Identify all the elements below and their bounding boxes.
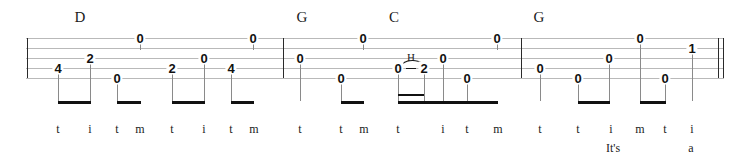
fret-number: 0	[392, 62, 403, 75]
end-barline-thick	[723, 38, 724, 78]
fingering-letter: i	[690, 123, 693, 135]
start-barline	[27, 38, 28, 78]
fingering-letter: i	[441, 123, 444, 135]
fingering-letter: i	[88, 123, 91, 135]
fingering-letter: t	[538, 123, 541, 135]
note-beam	[341, 101, 364, 104]
fret-number: 2	[166, 62, 177, 75]
note-beam	[231, 101, 254, 104]
chord-symbol: D	[75, 10, 86, 25]
staff-line-1	[26, 38, 724, 39]
note-beam	[117, 101, 141, 104]
staff-line-4	[26, 68, 724, 69]
hammer-on-connector	[406, 68, 416, 69]
fret-number: 4	[52, 62, 63, 75]
note-beam	[398, 94, 424, 96]
staff-line-5	[26, 78, 724, 79]
note-beam	[172, 101, 205, 104]
staff-line-3	[26, 58, 724, 59]
fret-number: 0	[437, 52, 448, 65]
fret-number: 0	[572, 72, 583, 85]
fret-number: 0	[659, 72, 670, 85]
chord-symbol: G	[297, 10, 308, 25]
lyric-word: a	[688, 142, 693, 154]
fingering-letter: t	[229, 123, 232, 135]
fingering-letter: t	[298, 123, 301, 135]
staff-line-2	[26, 48, 724, 49]
fret-number: 0	[247, 32, 258, 45]
fret-number: 0	[198, 52, 209, 65]
fingering-letter: m	[493, 123, 502, 135]
hammer-on-symbol: H	[407, 52, 415, 63]
note-stem	[692, 48, 693, 101]
note-beam	[578, 101, 610, 104]
fret-number: 0	[461, 72, 472, 85]
fret-number: 2	[84, 52, 95, 65]
fingering-letter: m	[359, 123, 368, 135]
fingering-letter: m	[135, 123, 144, 135]
fret-number: 0	[357, 32, 368, 45]
lyric-word: It's	[606, 142, 620, 154]
fingering-letter: t	[56, 123, 59, 135]
fret-number: 0	[335, 72, 346, 85]
fingering-letter: t	[170, 123, 173, 135]
note-beam	[398, 101, 468, 104]
fret-number: 1	[686, 42, 697, 55]
note-beam	[58, 101, 91, 104]
note-beam	[467, 101, 498, 104]
fret-number: 0	[603, 52, 614, 65]
fingering-letter: t	[339, 123, 342, 135]
fret-number: 0	[534, 62, 545, 75]
fret-number: 0	[134, 32, 145, 45]
barline-2	[521, 38, 522, 78]
fingering-letter: t	[576, 123, 579, 135]
fret-number: 0	[294, 52, 305, 65]
fingering-letter: m	[635, 123, 644, 135]
barline-1	[283, 38, 284, 78]
fingering-letter: i	[202, 123, 205, 135]
fret-number: 0	[491, 32, 502, 45]
tablature-sheet: DGCG H 4200200400002000000001 titmtitmtt…	[0, 0, 756, 159]
fingering-letter: t	[115, 123, 118, 135]
end-barline-thin	[718, 38, 719, 78]
fret-number: 0	[634, 32, 645, 45]
fingering-letter: t	[465, 123, 468, 135]
fingering-letter: t	[663, 123, 666, 135]
fret-number: 0	[111, 72, 122, 85]
chord-symbol: G	[534, 10, 545, 25]
note-stem	[640, 38, 641, 101]
fingering-letter: m	[249, 123, 258, 135]
fingering-letter: t	[396, 123, 399, 135]
fret-number: 4	[225, 62, 236, 75]
fret-number: 2	[418, 62, 429, 75]
fingering-letter: i	[609, 123, 612, 135]
note-beam	[640, 101, 666, 104]
chord-symbol: C	[389, 10, 399, 25]
